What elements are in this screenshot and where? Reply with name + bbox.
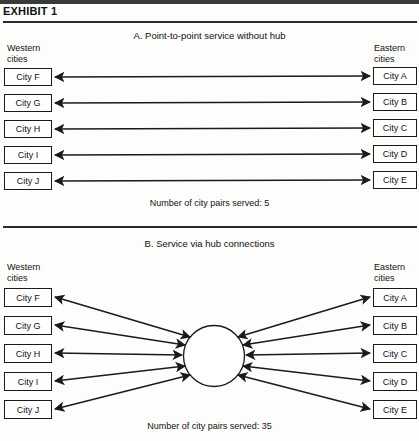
panel-b-east-arrow [238, 297, 370, 337]
panel-divider [3, 226, 417, 228]
panel-a-arrow [55, 102, 370, 103]
panel-b-west-city-box[interactable]: City I [4, 372, 52, 391]
panel-a-pairs-served-label: Number of city pairs served: 5 [0, 198, 419, 208]
panel-b-east-city-box[interactable]: City B [373, 316, 417, 335]
panel-b-east-arrow [238, 375, 370, 409]
panel-a-east-city-box[interactable]: City D [373, 145, 417, 163]
panel-a-arrow [55, 180, 370, 181]
panel-b-east-city-box[interactable]: City E [373, 400, 417, 419]
panel-b-western-cities-label: Western cities [7, 262, 40, 283]
panel-a-west-city-box[interactable]: City G [4, 94, 52, 112]
panel-b-east-arrow [246, 353, 370, 355]
panel-a-west-city-box[interactable]: City F [4, 68, 52, 86]
header-divider [3, 21, 417, 23]
panel-b-west-city-box[interactable]: City J [4, 400, 52, 419]
panel-b-west-arrow [55, 375, 190, 409]
panel-b-west-arrow-group [55, 297, 190, 409]
panel-a-east-city-box[interactable]: City C [373, 119, 417, 137]
panel-b-pairs-served-label: Number of city pairs served: 35 [0, 421, 419, 431]
panel-a-eastern-cities-label: Eastern cities [374, 43, 405, 64]
panel-b-west-city-box[interactable]: City H [4, 344, 52, 363]
panel-a-arrow [55, 128, 370, 129]
panel-a-west-city-box[interactable]: City H [4, 120, 52, 138]
panel-b-east-arrow [243, 325, 370, 345]
panel-a-east-city-box[interactable]: City E [373, 171, 417, 189]
panel-a-west-city-box[interactable]: City J [4, 172, 52, 190]
panel-b-west-arrow [55, 366, 185, 381]
panel-b-west-city-box[interactable]: City F [4, 288, 52, 307]
panel-a-east-city-box[interactable]: City B [373, 93, 417, 111]
panel-b-east-arrow-group [238, 297, 370, 409]
panel-b-west-city-box[interactable]: City G [4, 316, 52, 335]
hub-label: HUB [200, 351, 220, 362]
panel-b-west-arrow [55, 353, 182, 355]
top-band [0, 0, 419, 4]
exhibit-title: EXHIBIT 1 [3, 5, 57, 17]
panel-b-eastern-cities-label: Eastern cities [374, 262, 405, 283]
panel-a-arrow-group [55, 76, 370, 181]
panel-a-arrow [55, 76, 370, 77]
exhibit-page: EXHIBIT 1 A. Point-to-point service with… [0, 0, 419, 441]
panel-a-east-city-box[interactable]: City A [373, 67, 417, 85]
panel-b-east-arrow [243, 366, 370, 381]
panel-b-west-arrow [55, 297, 190, 337]
panel-b-west-arrow [55, 325, 185, 345]
panel-a-western-cities-label: Western cities [7, 43, 40, 64]
panel-a-arrow [55, 154, 370, 155]
panel-b-east-city-box[interactable]: City C [373, 344, 417, 363]
panel-a-title: A. Point-to-point service without hub [0, 30, 419, 41]
panel-b-title: B. Service via hub connections [0, 238, 419, 249]
panel-a-west-city-box[interactable]: City I [4, 146, 52, 164]
panel-b-east-city-box[interactable]: City A [373, 288, 417, 307]
panel-b-east-city-box[interactable]: City D [373, 372, 417, 391]
connection-arrows [0, 0, 419, 441]
